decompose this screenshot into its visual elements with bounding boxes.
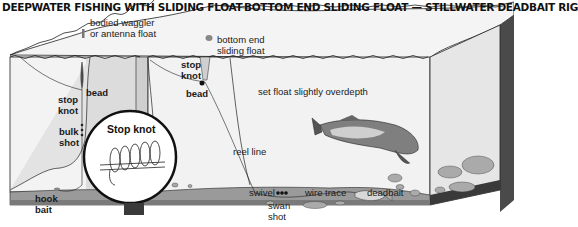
label-overdepth: set float slightly overdepth — [258, 87, 368, 97]
label-bulk: bulk — [59, 127, 79, 137]
inset-title: Stop knot — [107, 123, 155, 135]
label-stop-right: stop — [181, 60, 201, 70]
label-shot: shot — [59, 138, 79, 148]
title-right: BOTTOM END SLIDING FLOAT — STILLWATER DE… — [244, 1, 578, 13]
label-knot-right: knot — [181, 71, 201, 81]
label-bodied-waggler: bodied waggler — [90, 18, 154, 28]
label-bead-right: bead — [186, 89, 208, 99]
tank-side-wall — [500, 15, 514, 212]
label-knot-left: knot — [58, 106, 78, 116]
label-swan-shot: shot — [268, 212, 286, 222]
title-left: DEEPWATER FISHING WITH SLIDING FLOAT — [2, 1, 242, 13]
label-wire-trace: wire trace — [305, 188, 346, 198]
label-stop-left: stop — [58, 95, 78, 105]
label-swan: swan — [268, 201, 290, 211]
label-deadbait: deadbait — [367, 188, 403, 198]
label-bottom-end: bottom end — [217, 35, 265, 45]
waggler-icon — [82, 29, 85, 38]
label-sliding-float: sliding float — [217, 46, 265, 56]
label-swivel: swivel — [249, 188, 275, 198]
label-hook: hook — [35, 194, 58, 204]
bottom-float-icon — [206, 35, 213, 41]
label-bait: bait — [35, 205, 52, 215]
label-bead-left: bead — [86, 88, 108, 98]
label-reel-line: reel line — [233, 147, 266, 157]
label-antenna-float: or antenna float — [90, 29, 156, 39]
